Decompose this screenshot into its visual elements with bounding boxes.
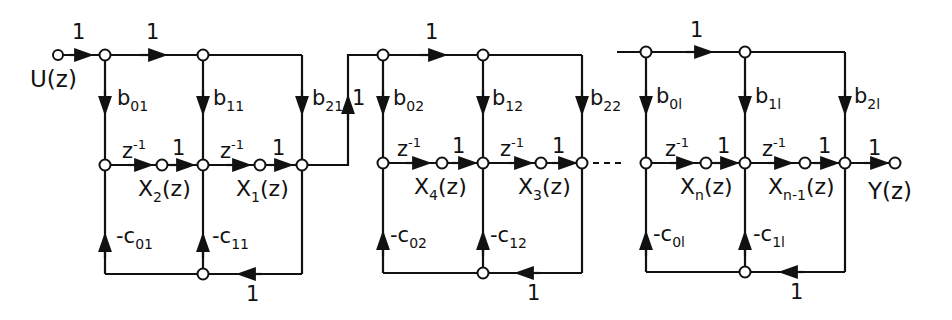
input-gain-label: 1 — [72, 22, 85, 43]
s3-delay-1: z-1 — [665, 136, 689, 160]
s3-c1: -c1l — [753, 224, 785, 249]
s2-c0: -c02 — [390, 225, 427, 250]
output-gain-label: 1 — [868, 138, 881, 159]
s1-delay-1-gain: 1 — [172, 138, 185, 159]
s1-state-x1: X1(z) — [236, 178, 289, 204]
s2-top-gain: 1 — [425, 22, 438, 43]
s2-b1: b12 — [492, 88, 523, 113]
s2-delay-1: z-1 — [397, 136, 421, 160]
s3-delay-2-gain: 1 — [818, 136, 831, 157]
s2-state-x3: X3(z) — [518, 176, 571, 202]
signal-flow-graph: 1 U(z) 1 Y(z) 1 b01 b11 b21 z-1 1 z-1 1 … — [0, 0, 952, 320]
s2-b2: b22 — [590, 88, 621, 113]
s3-delay-1-gain: 1 — [717, 136, 730, 157]
s3-b0: b0l — [656, 86, 682, 111]
s1-feedback-gain: 1 — [246, 284, 259, 305]
s1-delay-2: z-1 — [220, 138, 244, 162]
s1-b2: b21 — [312, 88, 343, 113]
s3-delay-2: z-1 — [762, 136, 786, 160]
s2-feedback-gain: 1 — [527, 283, 540, 304]
s3-b1: b1l — [755, 86, 781, 111]
s1-delay-2-gain: 1 — [272, 138, 285, 159]
s3-b2: b2l — [854, 86, 880, 111]
output-label: Y(z) — [868, 180, 912, 203]
connector-gain: 1 — [352, 88, 365, 109]
s2-delay-2-gain: 1 — [552, 136, 565, 157]
s2-delay-2: z-1 — [500, 136, 524, 160]
s3-feedback-gain: 1 — [790, 282, 803, 303]
s1-b0: b01 — [117, 88, 148, 113]
s3-state-xn-1: Xn-1(z) — [768, 176, 835, 202]
s3-state-xn: Xn(z) — [680, 176, 733, 202]
s1-state-x2: X2(z) — [138, 178, 191, 204]
s3-top-gain: 1 — [690, 20, 703, 41]
s3-c0: -c0l — [653, 224, 685, 249]
s1-b1: b11 — [213, 88, 244, 113]
s2-c1: -c12 — [490, 225, 527, 250]
s1-c1: -c11 — [212, 226, 249, 251]
input-label: U(z) — [30, 68, 77, 91]
s1-top-gain: 1 — [146, 22, 159, 43]
s1-c0: -c01 — [116, 226, 153, 251]
s1-delay-1: z-1 — [122, 138, 146, 162]
s2-b0: b02 — [393, 88, 424, 113]
s2-delay-1-gain: 1 — [452, 136, 465, 157]
s2-state-x4: X4(z) — [414, 176, 467, 202]
